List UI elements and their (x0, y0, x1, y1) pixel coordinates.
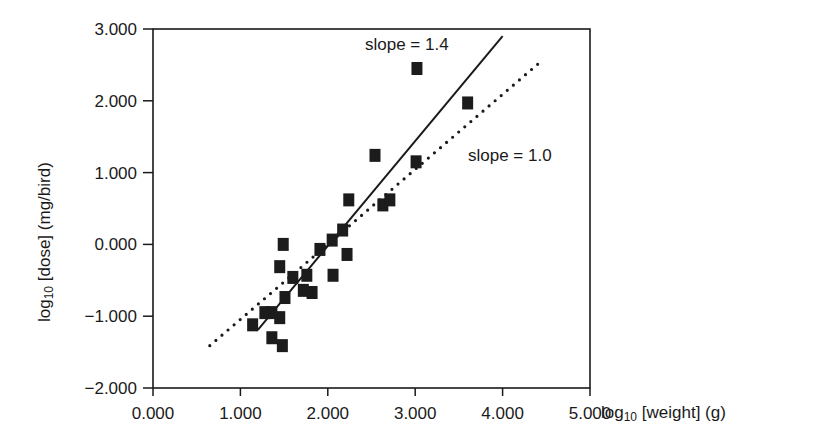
data-point-square (384, 193, 395, 206)
data-point-square (247, 318, 258, 331)
data-point-square (411, 62, 422, 75)
x-tick-label: 0.000 (132, 404, 175, 423)
y-tick-label: 3.000 (94, 20, 137, 39)
plot-frame (153, 29, 590, 388)
data-point-square (266, 331, 277, 344)
x-tick-label: 2.000 (307, 404, 350, 423)
data-point-square (274, 311, 285, 324)
data-point-square (307, 286, 318, 299)
data-point-square (411, 155, 422, 168)
data-point-square (342, 248, 353, 261)
data-point-square (462, 96, 473, 109)
x-axis: 0.0001.0002.0003.0004.0005.000 (132, 388, 612, 423)
data-point-square (327, 234, 338, 247)
x-tick-label: 1.000 (219, 404, 262, 423)
data-point-square (314, 243, 325, 256)
x-tick-label: 4.000 (481, 404, 524, 423)
data-point-square (301, 269, 312, 282)
data-point-square (337, 224, 348, 237)
y-tick-label: −2.000 (85, 379, 137, 398)
data-point-square (369, 149, 380, 162)
y-tick-label: 1.000 (94, 164, 137, 183)
y-tick-label: −1.000 (85, 307, 137, 326)
slope-1-0-label: slope = 1.0 (468, 146, 552, 165)
y-axis: −2.000−1.0000.0001.0002.0003.000 (85, 20, 153, 398)
solid-fit-line (258, 36, 503, 330)
y-tick-label: 2.000 (94, 92, 137, 111)
scatter-chart: 0.0001.0002.0003.0004.0005.000 −2.000−1.… (0, 0, 818, 447)
data-point-square (287, 271, 298, 284)
data-point-square (279, 291, 290, 304)
data-point-square (278, 238, 289, 251)
x-axis-title: log10 [weight] (g) (601, 403, 726, 424)
data-point-square (343, 193, 354, 206)
dotted-fit-line (210, 61, 542, 346)
data-point-square (328, 269, 339, 282)
x-tick-label: 3.000 (394, 404, 437, 423)
data-point-square (274, 260, 285, 273)
slope-1-4-label: slope = 1.4 (365, 35, 449, 54)
y-axis-title: log10 [dose] (mg/bird) (35, 162, 56, 322)
y-tick-label: 0.000 (94, 235, 137, 254)
data-point-square (277, 339, 288, 352)
fit-lines (210, 36, 542, 345)
